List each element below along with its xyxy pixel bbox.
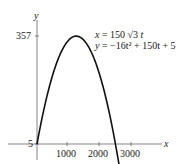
x-tick-label-1000: 1000 <box>56 149 76 159</box>
x-axis-label: x <box>164 139 168 149</box>
y-tick-label-357: 357 <box>16 31 31 41</box>
eq-x-t: t <box>141 29 144 40</box>
x-tick-label-3000: 3000 <box>120 149 140 159</box>
y-axis-label: y <box>34 11 38 21</box>
eq-y-rhs: = −16t² + 150t + 5 <box>99 40 175 51</box>
projectile-curve <box>37 36 120 164</box>
x-tick-label-2000: 2000 <box>88 149 108 159</box>
equation-x: x = 150 √3 t <box>95 30 143 40</box>
y-tick-label-5: 5 <box>28 139 33 149</box>
eq-x-rhs: = 150 √3 <box>99 29 140 40</box>
equation-y: y = −16t² + 150t + 5 <box>95 41 176 51</box>
